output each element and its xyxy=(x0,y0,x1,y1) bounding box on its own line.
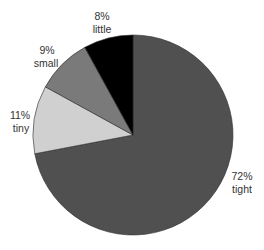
label-little-name: little xyxy=(93,23,112,35)
pie-slices xyxy=(33,35,233,235)
label-tight-name: tight xyxy=(232,183,252,195)
label-tiny-percent: 11% xyxy=(10,109,30,121)
label-tight-percent: 72% xyxy=(231,170,252,182)
label-small-percent: 9% xyxy=(39,44,54,56)
label-small-name: small xyxy=(34,57,59,69)
label-little-percent: 8% xyxy=(94,10,109,22)
pie-chart: 72% tight 11% tiny 9% small 8% little xyxy=(0,0,264,250)
label-tiny-name: tiny xyxy=(13,122,30,134)
